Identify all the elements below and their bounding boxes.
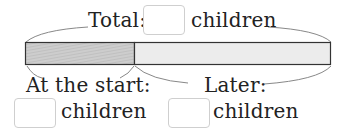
later-unit: children [213, 100, 299, 122]
later-input[interactable] [168, 98, 210, 128]
start-label: At the start: [26, 74, 151, 96]
start-unit: children [61, 100, 147, 122]
total-brace [26, 27, 88, 42]
total-label: Total: [88, 9, 146, 31]
bar-segment-start [26, 43, 135, 65]
bar-segment-later [135, 43, 331, 65]
total-input[interactable] [143, 5, 185, 35]
later-label: Later: [204, 74, 267, 96]
start-input[interactable] [14, 98, 56, 128]
total-unit: children [191, 9, 277, 31]
